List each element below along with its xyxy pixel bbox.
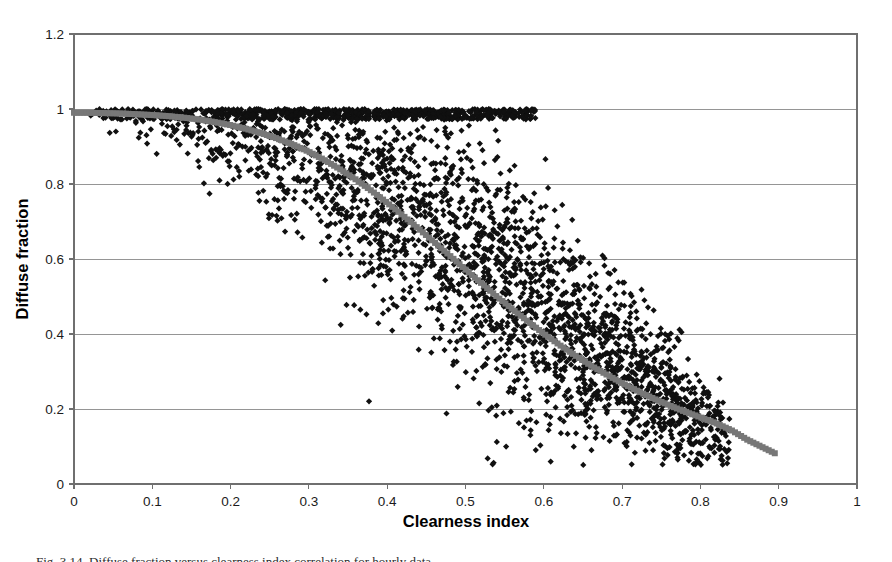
figure-caption: Fig. 3.14. Diffuse fraction versus clear… xyxy=(36,554,434,562)
x-tick-label: 0.3 xyxy=(300,494,319,509)
x-tick-label: 1 xyxy=(853,494,861,509)
x-tick-label: 0.2 xyxy=(221,494,240,509)
y-tick-label: 0.2 xyxy=(45,402,64,417)
x-tick-label: 0.7 xyxy=(613,494,632,509)
x-tick-label: 0.6 xyxy=(534,494,553,509)
x-tick-label: 0 xyxy=(70,494,78,509)
diffuse-fraction-scatter-chart: 00.10.20.30.40.50.60.70.80.91 00.20.40.6… xyxy=(0,0,892,562)
x-tick-label: 0.5 xyxy=(456,494,475,509)
y-tick-label: 1.2 xyxy=(45,27,64,42)
x-tick-label: 0.8 xyxy=(691,494,710,509)
x-axis-title: Clearness index xyxy=(403,512,530,530)
y-tick-label: 1 xyxy=(56,102,64,117)
y-tick-label: 0.8 xyxy=(45,177,64,192)
x-tick-label: 0.4 xyxy=(378,494,397,509)
x-tick-label: 0.1 xyxy=(143,494,162,509)
y-axis-title: Diffuse fraction xyxy=(13,198,31,319)
y-tick-label: 0 xyxy=(56,477,64,492)
figure-container: 00.10.20.30.40.50.60.70.80.91 00.20.40.6… xyxy=(0,0,892,562)
x-tick-label: 0.9 xyxy=(769,494,788,509)
curve-marker xyxy=(772,450,778,456)
y-tick-label: 0.6 xyxy=(45,252,64,267)
y-tick-label: 0.4 xyxy=(45,327,64,342)
